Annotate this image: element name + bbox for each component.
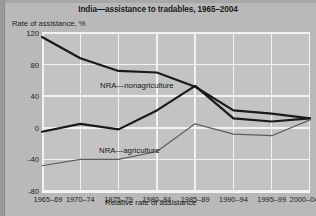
x-axis-tick: 1970–74 [66, 195, 95, 204]
series-lines [42, 33, 310, 191]
x-axis-tick: 1965–69 [34, 195, 63, 204]
x-axis-tick: 1990–94 [219, 195, 248, 204]
y-axis-tick: 0 [3, 123, 39, 132]
chart-figure: India—assistance to tradables, 1965–2004… [0, 0, 316, 216]
y-axis-tick-labels: 12080400-40-80 [0, 33, 39, 191]
series-line [42, 37, 310, 118]
x-axis-tick: 2000–04 [290, 195, 316, 204]
x-axis-tick: 1975–79 [104, 195, 133, 204]
y-axis-label: Rate of assistance, % [12, 19, 85, 28]
figure-top-border [0, 0, 316, 3]
series-line [42, 120, 310, 166]
series-line [42, 86, 310, 132]
y-axis-tick: 80 [3, 60, 39, 69]
series-label-nonagriculture: NRA—nonagriculture [100, 81, 174, 90]
y-axis-tick: -40 [3, 155, 39, 164]
x-axis-tick: 1980–84 [142, 195, 171, 204]
chart-title: India—assistance to tradables, 1965–2004 [0, 5, 316, 14]
y-axis-tick: 120 [3, 29, 39, 38]
y-axis-tick: 40 [3, 92, 39, 101]
x-axis-tick: 1995–99 [257, 195, 286, 204]
x-axis-tick: 1985–89 [181, 195, 210, 204]
x-axis-tick-labels: 1965–691970–741975–791980–841985–891990–… [42, 195, 310, 209]
series-label-agriculture: NRA—agriculture [99, 146, 160, 155]
plot-area: NRA—nonagriculture NRA—agriculture Relat… [42, 33, 310, 191]
